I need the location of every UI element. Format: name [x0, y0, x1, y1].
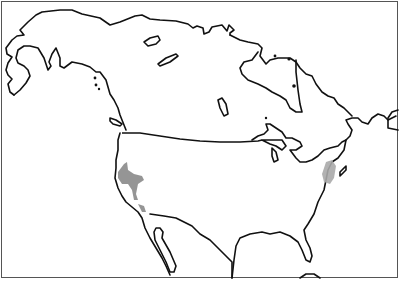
mexico-gulf-coast: [150, 214, 232, 278]
island-dot: [94, 77, 97, 80]
hudson-bay-west: [240, 52, 302, 112]
island-dot: [274, 55, 277, 58]
island-dot: [287, 57, 290, 60]
lake-superior: [262, 140, 286, 150]
island-dot: [95, 84, 98, 87]
alaska-south-coast: [14, 46, 126, 130]
florida-tip: [300, 274, 320, 278]
island-dot: [98, 88, 100, 90]
west-coast-shaded-region: [118, 162, 146, 212]
long-island: [340, 166, 346, 176]
north-america-map: [0, 0, 410, 286]
canada-us-border: [122, 133, 262, 142]
lake-michigan: [272, 148, 278, 162]
vancouver-island: [110, 118, 122, 126]
great-lakes-coast: [252, 114, 396, 162]
island-dot: [292, 84, 296, 88]
arctic-island-2: [158, 54, 178, 66]
arctic-island-1: [144, 36, 160, 46]
hudson-bay-coast: [230, 35, 352, 116]
island-dot: [265, 117, 267, 119]
east-coast-shaded-region: [322, 160, 336, 184]
arctic-island-3: [218, 98, 228, 116]
atlantic-gulf-coast: [232, 140, 346, 278]
